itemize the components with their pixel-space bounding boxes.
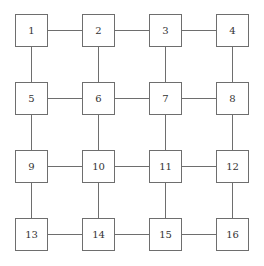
- node-label: 4: [229, 25, 235, 36]
- node-12: 12: [216, 150, 249, 183]
- node-label: 5: [28, 93, 34, 104]
- node-label: 3: [162, 25, 168, 36]
- node-3: 3: [149, 14, 182, 47]
- edge-9-13: [31, 183, 32, 218]
- node-1: 1: [15, 14, 48, 47]
- node-label: 13: [25, 229, 38, 240]
- node-label: 1: [28, 25, 34, 36]
- edge-5-6: [48, 98, 82, 99]
- node-4: 4: [216, 14, 249, 47]
- node-label: 9: [28, 161, 34, 172]
- edge-4-8: [232, 47, 233, 82]
- node-label: 15: [159, 229, 172, 240]
- edge-2-3: [115, 30, 149, 31]
- node-6: 6: [82, 82, 115, 115]
- edge-13-14: [48, 234, 82, 235]
- node-5: 5: [15, 82, 48, 115]
- node-14: 14: [82, 218, 115, 251]
- node-label: 14: [92, 229, 105, 240]
- node-label: 12: [226, 161, 239, 172]
- edge-7-8: [182, 98, 216, 99]
- node-13: 13: [15, 218, 48, 251]
- edge-3-4: [182, 30, 216, 31]
- node-8: 8: [216, 82, 249, 115]
- edge-1-5: [31, 47, 32, 82]
- edge-9-10: [48, 166, 82, 167]
- node-11: 11: [149, 150, 182, 183]
- edge-10-14: [98, 183, 99, 218]
- edge-8-12: [232, 115, 233, 150]
- node-label: 7: [162, 93, 168, 104]
- edge-11-15: [165, 183, 166, 218]
- node-16: 16: [216, 218, 249, 251]
- edge-7-11: [165, 115, 166, 150]
- node-9: 9: [15, 150, 48, 183]
- node-label: 16: [226, 229, 239, 240]
- edge-12-16: [232, 183, 233, 218]
- edge-2-6: [98, 47, 99, 82]
- node-label: 10: [92, 161, 105, 172]
- node-10: 10: [82, 150, 115, 183]
- edge-6-7: [115, 98, 149, 99]
- edge-10-11: [115, 166, 149, 167]
- node-label: 11: [159, 161, 172, 172]
- node-15: 15: [149, 218, 182, 251]
- node-7: 7: [149, 82, 182, 115]
- node-label: 8: [229, 93, 235, 104]
- edge-3-7: [165, 47, 166, 82]
- edge-1-2: [48, 30, 82, 31]
- edge-15-16: [182, 234, 216, 235]
- grid-diagram: 1 2 3 4 5 6 7 8 9 10 11 12 13 14 15 16: [0, 0, 264, 266]
- edge-14-15: [115, 234, 149, 235]
- node-label: 6: [95, 93, 101, 104]
- node-label: 2: [95, 25, 101, 36]
- edge-11-12: [182, 166, 216, 167]
- edge-6-10: [98, 115, 99, 150]
- edge-5-9: [31, 115, 32, 150]
- node-2: 2: [82, 14, 115, 47]
